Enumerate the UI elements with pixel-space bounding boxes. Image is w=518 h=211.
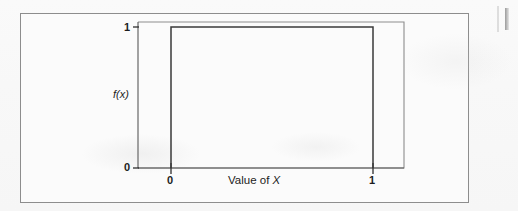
x-axis-tick-label-0: 0	[167, 175, 173, 186]
plot-bounding-box	[138, 22, 404, 168]
screenshot-root: 1 0 0 1 Value of X f(x)	[0, 0, 518, 211]
y-axis-tick-label-1: 1	[124, 22, 130, 33]
y-axis-tick-label-0: 0	[124, 162, 130, 173]
y-axis-title: f(x)	[113, 89, 129, 100]
page-edge-artifact	[505, 8, 509, 30]
x-axis-title-text: Value of	[228, 174, 273, 186]
page-edge-artifact	[497, 6, 499, 32]
x-axis-title: Value of X	[228, 175, 280, 187]
density-curve	[171, 27, 373, 168]
x-axis-title-variable: X	[273, 174, 281, 186]
x-axis-tick-label-1: 1	[369, 175, 375, 186]
